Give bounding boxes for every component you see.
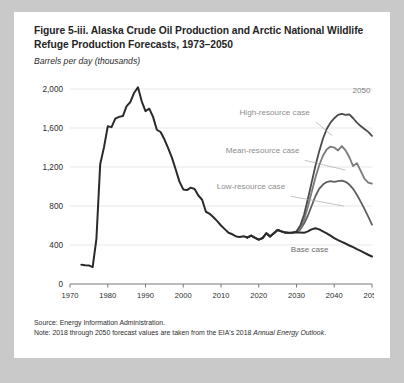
y-tick-400: 400	[49, 241, 63, 250]
line-chart: 04008001,2001,6002,000 19701980199020002…	[34, 68, 374, 300]
annotation-leader-lines	[291, 122, 346, 206]
x-tick-2040: 2040	[326, 291, 343, 300]
gridlines	[70, 89, 372, 245]
annotation-low-resource-case: Low-resource case	[217, 182, 286, 191]
y-tick-800: 800	[49, 202, 63, 211]
x-axis-tick-labels: 197019801990200020102020203020402050	[62, 291, 374, 300]
source-line: Source: Energy Information Administratio…	[34, 318, 382, 328]
note-suffix: .	[324, 329, 326, 336]
data-series-group	[81, 87, 372, 267]
x-tick-2000: 2000	[175, 291, 192, 300]
x-tick-2010: 2010	[213, 291, 230, 300]
note-line: Note: 2018 through 2050 forecast values …	[34, 328, 382, 338]
annotation-high-resource-case: High-resource case	[240, 108, 311, 117]
y-tick-1200: 1,200	[43, 163, 64, 172]
chart-plot-area: 04008001,2001,6002,000 19701980199020002…	[34, 68, 374, 300]
x-tick-1970: 1970	[62, 291, 79, 300]
figure-title: Figure 5-iii. Alaska Crude Oil Productio…	[34, 24, 374, 51]
annotation-mean-resource-case: Mean-resource case	[226, 146, 300, 155]
annotation-base-case: Base case	[291, 245, 329, 254]
series-line-historical	[81, 87, 247, 267]
x-axis	[70, 284, 372, 288]
figure-notes: Source: Energy Information Administratio…	[34, 318, 382, 339]
figure-card: Figure 5-iii. Alaska Crude Oil Productio…	[14, 12, 390, 358]
x-tick-1990: 1990	[137, 291, 154, 300]
y-tick-0: 0	[58, 280, 63, 289]
x-tick-2030: 2030	[288, 291, 305, 300]
x-tick-2050: 2050	[364, 291, 374, 300]
y-axis-units-label: Barrels per day (thousands)	[34, 56, 140, 66]
note-italic-title: Annual Energy Outlook	[253, 329, 324, 336]
series-line-high-resource-case	[247, 114, 372, 240]
end-year-label: 2050	[352, 86, 371, 95]
y-tick-2000: 2,000	[43, 85, 64, 94]
annotation-labels: High-resource caseMean-resource caseLow-…	[217, 86, 371, 253]
y-axis-tick-labels: 04008001,2001,6002,000	[43, 85, 64, 289]
x-tick-2020: 2020	[250, 291, 267, 300]
note-prefix: Note: 2018 through 2050 forecast values …	[34, 329, 253, 336]
y-tick-1600: 1,600	[43, 124, 64, 133]
x-tick-1980: 1980	[99, 291, 116, 300]
